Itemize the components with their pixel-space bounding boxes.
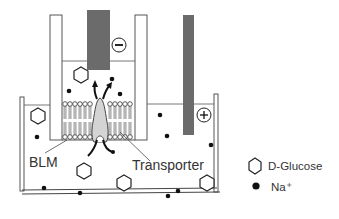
legend: D-Glucose Na⁺: [249, 158, 322, 193]
hexagon-icon: [249, 158, 261, 174]
legend-item-glucose: D-Glucose: [249, 158, 322, 174]
blm-label: BLM: [29, 154, 58, 170]
legend-item-sodium: Na⁺: [252, 181, 291, 193]
legend-label-glucose: D-Glucose: [268, 160, 322, 172]
positive-electrode: [183, 15, 211, 135]
blm-transporter-diagram: BLM Transporter D-Glucose Na⁺: [0, 0, 339, 219]
dot-icon: [252, 182, 259, 189]
legend-label-sodium: Na⁺: [271, 181, 292, 193]
transporter-label: Transporter: [132, 157, 204, 173]
transporter-protein: [92, 98, 108, 142]
